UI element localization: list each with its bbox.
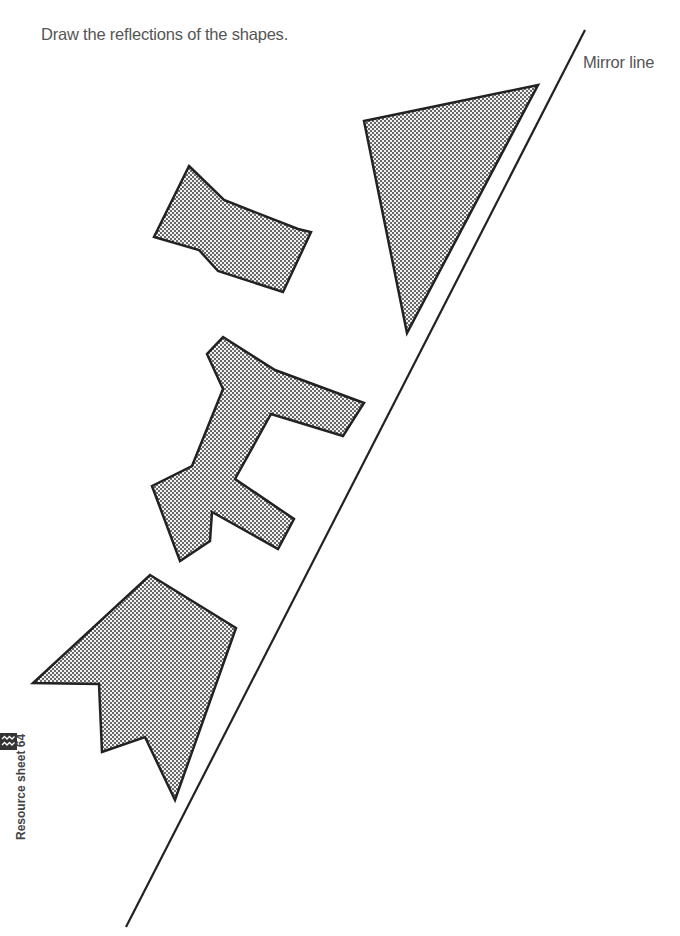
bowtie-shape <box>154 166 311 292</box>
arrow-shape <box>33 575 236 800</box>
resource-sheet-label: Resource sheet 64 <box>14 734 28 840</box>
worksheet-canvas <box>0 0 680 936</box>
branch-shape <box>152 337 364 561</box>
triangle-shape <box>364 85 538 333</box>
